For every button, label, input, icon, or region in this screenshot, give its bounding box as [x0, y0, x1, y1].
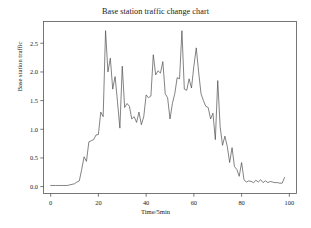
plot-frame — [44, 22, 297, 194]
x-axis-tick-label: 0 — [49, 199, 52, 206]
x-axis-tick-label: 20 — [95, 199, 101, 206]
y-axis-tick-label: 2.5 — [30, 40, 38, 47]
y-axis-label: Base station traffic — [16, 12, 23, 122]
x-axis-tick-label: 80 — [238, 199, 244, 206]
y-axis-tick-label: 0.5 — [30, 154, 38, 161]
x-axis-tick-label: 40 — [143, 199, 149, 206]
y-axis-tick-label: 2.0 — [30, 68, 38, 75]
line-chart-plot: 0204060801000.00.51.01.52.02.5 — [0, 0, 311, 228]
y-axis-tick-label: 0.0 — [30, 183, 38, 190]
x-axis-label: Time/5min — [0, 208, 311, 215]
chart-page: Base station traffic change chart 020406… — [0, 0, 311, 228]
x-axis-tick-label: 100 — [285, 199, 295, 206]
y-axis-tick-label: 1.5 — [30, 97, 38, 104]
x-axis-tick-label: 60 — [191, 199, 197, 206]
y-axis-tick-label: 1.0 — [30, 126, 38, 133]
